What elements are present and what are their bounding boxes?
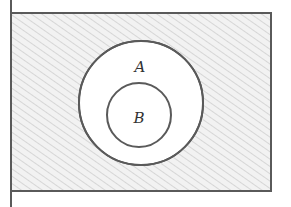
set-a-label: A	[133, 58, 146, 76]
set-b-label: B	[132, 109, 144, 127]
venn-diagram: A B	[0, 0, 291, 207]
